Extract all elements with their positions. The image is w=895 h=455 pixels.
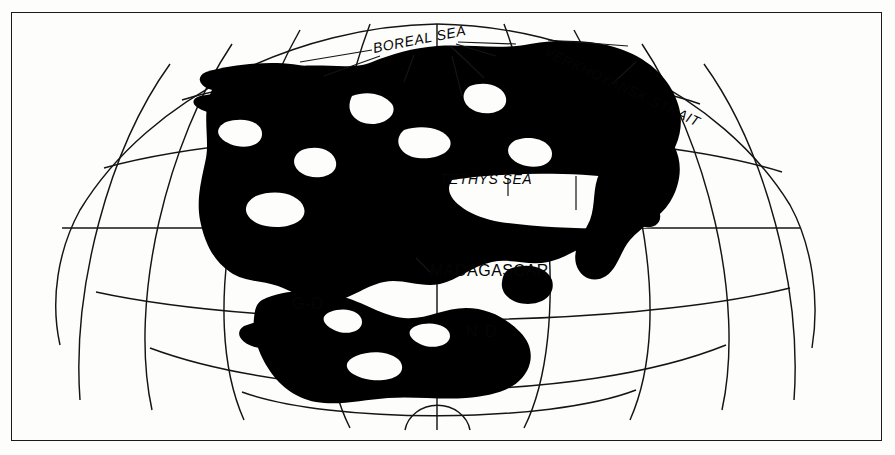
map-canvas: BOREAL SEA VERKHOYANSK STRAIT TETHYS SEA… <box>0 0 895 455</box>
map-figure: BOREAL SEA VERKHOYANSK STRAIT TETHYS SEA… <box>0 0 895 455</box>
label-madagascar: MADAGASCAR <box>430 262 549 279</box>
label-tethys-sea: TETHYS SEA <box>440 171 532 187</box>
land-nw-strip <box>200 63 324 94</box>
leader-boreal-6 <box>458 42 516 44</box>
label-gondwana-left: G-O <box>292 295 324 312</box>
landmass-pangaea <box>193 41 690 404</box>
label-gondwana-right: N D <box>466 323 498 340</box>
land-sa-peninsula <box>239 322 287 349</box>
leader-boreal-1 <box>300 50 372 62</box>
